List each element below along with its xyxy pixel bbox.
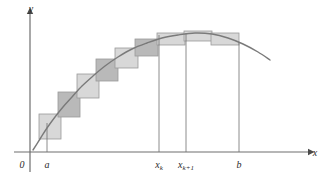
- y-axis-label: y: [28, 3, 34, 14]
- riemann-rectangle: [135, 39, 158, 56]
- tick-label-text: a: [45, 159, 50, 170]
- tick-label-b: b: [237, 159, 242, 170]
- plot-background: [0, 0, 324, 180]
- tick-label-a: a: [45, 159, 50, 170]
- riemann-rectangle: [115, 48, 138, 68]
- riemann-sum-plot: y x 0 axkxk+1b: [0, 0, 324, 180]
- origin-label: 0: [20, 159, 25, 170]
- figure-container: y x 0 axkxk+1b: [0, 0, 324, 180]
- x-axis-label: x: [312, 147, 318, 158]
- tick-label-text: b: [237, 159, 242, 170]
